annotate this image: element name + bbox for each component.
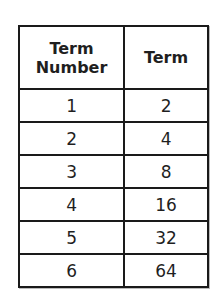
header-row: Term Number Term bbox=[19, 26, 208, 89]
table-row: 1 2 bbox=[19, 89, 208, 122]
header-term-number: Term Number bbox=[19, 26, 124, 89]
table-row: 5 32 bbox=[19, 221, 208, 254]
header-term: Term bbox=[124, 26, 208, 89]
cell-term-number: 4 bbox=[19, 188, 124, 221]
header-term-number-line2: Number bbox=[36, 58, 108, 77]
table-row: 2 4 bbox=[19, 122, 208, 155]
cell-term-number: 1 bbox=[19, 89, 124, 122]
cell-term: 64 bbox=[124, 254, 208, 287]
header-term-number-line1: Term bbox=[49, 39, 93, 58]
table-row: 6 64 bbox=[19, 254, 208, 287]
cell-term-number: 2 bbox=[19, 122, 124, 155]
cell-term: 32 bbox=[124, 221, 208, 254]
table-row: 4 16 bbox=[19, 188, 208, 221]
sequence-table: Term Number Term 1 2 2 4 3 8 4 16 5 32 6 bbox=[18, 25, 209, 288]
cell-term: 8 bbox=[124, 155, 208, 188]
cell-term-number: 6 bbox=[19, 254, 124, 287]
cell-term: 2 bbox=[124, 89, 208, 122]
cell-term: 4 bbox=[124, 122, 208, 155]
cell-term-number: 5 bbox=[19, 221, 124, 254]
cell-term-number: 3 bbox=[19, 155, 124, 188]
cell-term: 16 bbox=[124, 188, 208, 221]
table-row: 3 8 bbox=[19, 155, 208, 188]
